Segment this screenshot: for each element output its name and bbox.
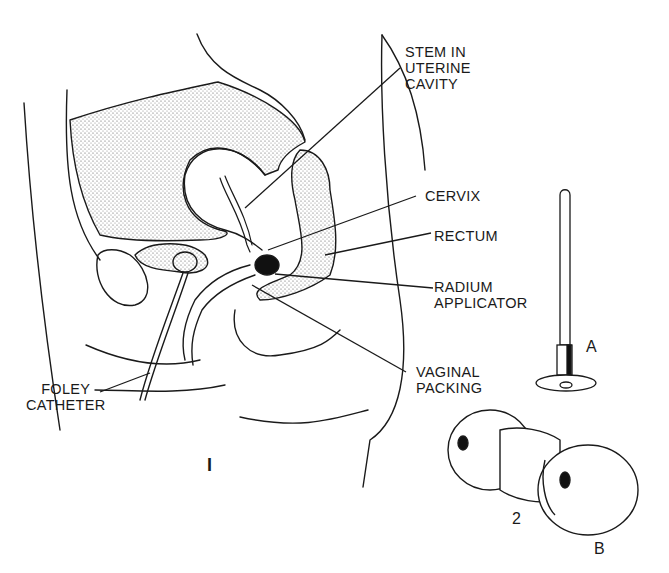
body-outline-right — [363, 35, 404, 487]
part-label-b: B — [594, 540, 605, 558]
label-vaginal-packing: VAGINAL PACKING — [416, 364, 482, 396]
abdominal-shaded-region — [70, 82, 305, 241]
anatomical-diagram — [0, 0, 669, 573]
figure-number-2: 2 — [512, 510, 521, 528]
label-rectum: RECTUM — [434, 228, 498, 244]
vaginal-packing — [183, 265, 250, 360]
label-stem-in-uterine-cavity: STEM IN UTERINE CAVITY — [405, 44, 471, 92]
uterine-stem — [220, 176, 252, 252]
part-label-a: A — [586, 338, 597, 356]
leader-vaginal — [252, 285, 406, 372]
radium-applicator-drawing — [255, 255, 279, 275]
buttock-curve — [240, 410, 368, 423]
leader-rectum — [325, 233, 431, 255]
leader-cervix — [268, 196, 416, 250]
ovoid-applicator-drawing — [448, 410, 638, 535]
figure-number-1: I — [207, 455, 212, 476]
label-foley-catheter: FOLEY CATHETER — [26, 381, 105, 413]
label-cervix: CERVIX — [425, 188, 481, 204]
tandem-applicator-drawing — [536, 190, 596, 391]
label-radium-applicator: RADIUM APPLICATOR — [434, 279, 528, 311]
